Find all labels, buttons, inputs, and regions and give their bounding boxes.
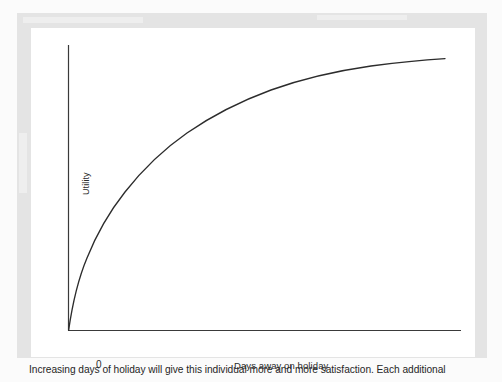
scan-smudge xyxy=(317,15,407,20)
scanned-page: Days away on holiday 0 Utility Increasin… xyxy=(0,0,502,382)
chart-panel: Days away on holiday 0 Utility xyxy=(31,28,475,357)
figure-caption: Increasing days of holiday will give thi… xyxy=(29,363,489,377)
utility-curve xyxy=(69,59,445,331)
scan-smudge xyxy=(23,17,143,23)
y-axis-label: Utility xyxy=(81,172,91,195)
scan-smudge xyxy=(19,133,27,193)
utility-curve-chart xyxy=(31,28,475,357)
